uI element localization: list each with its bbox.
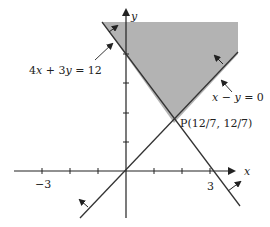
x-tick-label-neg3: −3 xyxy=(35,178,51,191)
y-axis-label: y xyxy=(130,10,138,23)
feasible-region-diagram: x −3 3 y 4x + 3y = 12 x − y = 0 P(12/7, … xyxy=(0,0,270,227)
direction-arrow-line1-bottom xyxy=(228,182,240,191)
x-tick-label-3: 3 xyxy=(207,180,214,193)
leader-arrow-line1-label xyxy=(95,44,112,60)
label-line2-minus: − xyxy=(218,91,234,104)
label-line1: 4x + 3y = 12 xyxy=(29,64,102,77)
label-line2: x − y = 0 xyxy=(212,91,264,104)
label-line1-eq: = 12 xyxy=(72,64,102,77)
label-line1-coef-b: 3 xyxy=(58,64,65,77)
x-axis-label: x xyxy=(244,165,251,178)
label-line1-coef-a: 4 xyxy=(29,64,36,77)
intersection-point-label: P(12/7, 12/7) xyxy=(180,117,252,130)
label-line1-plus: + xyxy=(42,64,58,77)
label-line2-eq: = 0 xyxy=(241,91,264,104)
direction-arrow-line2-bottom xyxy=(80,200,88,207)
